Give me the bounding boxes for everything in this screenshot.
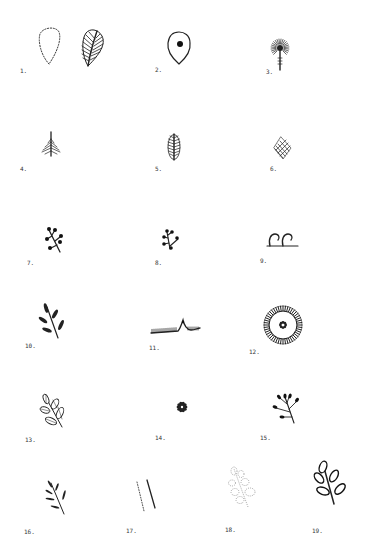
figure-label: 15. <box>260 434 271 441</box>
curl-scrolls-on-line-icon <box>266 231 300 249</box>
figure-label: 18. <box>225 526 236 533</box>
oval-fishbone-leaf-icon <box>166 133 182 161</box>
dotted-leaf-outline-icon <box>36 26 62 66</box>
figure-label: 7. <box>27 259 34 266</box>
motif-plate-page: { "page": { "type": "illustration-plate"… <box>0 0 366 560</box>
figure-label: 2. <box>155 66 162 73</box>
small-rosette-icon <box>175 400 189 414</box>
sprig-with-outlined-leaves-icon <box>38 393 68 429</box>
figure-label: 14. <box>155 434 166 441</box>
hatched-leaf-icon <box>80 28 106 68</box>
figure-label: 11. <box>149 344 160 351</box>
figure-label: 3. <box>266 68 273 75</box>
figure-label: 16. <box>24 528 35 535</box>
dotted-and-solid-diagonal-lines-icon <box>134 478 158 514</box>
teardrop-outline-with-dot-icon <box>166 30 192 66</box>
figure-label: 6. <box>270 165 277 172</box>
sprig-with-berries-icon <box>44 226 64 254</box>
sprig-with-narrow-leaves-icon <box>44 480 70 516</box>
figure-label: 13. <box>25 436 36 443</box>
figure-label: 4. <box>20 165 27 172</box>
diamond-hatched-leaf-icon <box>273 136 293 160</box>
figure-label: 10. <box>25 342 36 349</box>
figure-label: 19. <box>312 527 323 534</box>
diamond-fishbone-leaf-icon <box>40 131 62 157</box>
small-sprig-with-berries-icon <box>162 229 182 251</box>
dotted-sprig-icon <box>228 466 258 508</box>
fringed-line-with-peak-icon <box>150 317 202 337</box>
sprig-with-buds-icon <box>272 392 300 424</box>
figure-label: 12. <box>249 348 260 355</box>
sprig-with-loop-leaves-icon <box>313 460 347 506</box>
ringed-circle-with-center-flower-icon <box>263 305 303 345</box>
figure-label: 9. <box>260 257 267 264</box>
figure-label: 1. <box>20 67 27 74</box>
figure-label: 8. <box>155 259 162 266</box>
sprig-with-solid-leaves-icon <box>38 303 66 339</box>
figure-label: 17. <box>126 527 137 534</box>
figure-label: 5. <box>155 165 162 172</box>
